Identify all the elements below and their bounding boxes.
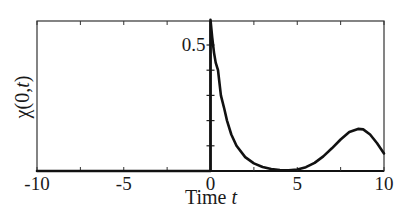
y-axis-label-close: )	[11, 76, 34, 83]
x-tick-label: -5	[116, 173, 132, 194]
x-tick-label: 5	[293, 173, 303, 194]
y-axis-label: χ(0,t)	[11, 76, 34, 120]
x-axis-label-var: t	[231, 186, 237, 208]
x-axis-label-text: Time	[185, 186, 232, 208]
x-tick-label: 10	[375, 173, 394, 194]
x-axis-label: Time t	[185, 186, 238, 208]
y-axis-label-func: χ	[11, 109, 34, 119]
chart: -10-50510 0.5 Time t χ(0,t)	[0, 0, 402, 210]
y-tick-label: 0.5	[182, 34, 206, 55]
y-axis-label-args: (0,	[11, 88, 34, 110]
data-line-chi	[37, 20, 384, 171]
y-tick-labels: 0.5	[182, 34, 206, 55]
x-tick-label: -10	[24, 173, 49, 194]
